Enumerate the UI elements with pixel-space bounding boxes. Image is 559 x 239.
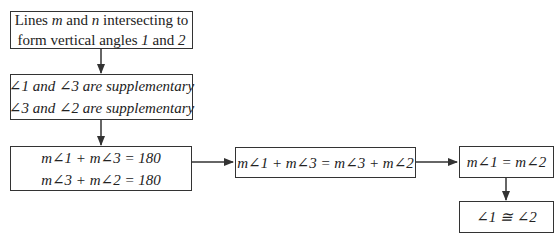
node-substitution: m∠1 + m∠3 = m∠3 + m∠2 <box>235 147 416 178</box>
node-supplementary: ∠1 and ∠3 are supplementary ∠3 and ∠2 ar… <box>10 74 193 120</box>
node-subtract-line-1: m∠1 = m∠2 <box>467 152 546 172</box>
node-supp-line-2: ∠3 and ∠2 are supplementary <box>9 97 194 119</box>
node-sums-line-2: m∠3 + m∠2 = 180 <box>41 169 161 191</box>
node-supp-line-1: ∠1 and ∠3 are supplementary <box>9 75 194 97</box>
node-subst-line-1: m∠1 + m∠3 = m∠3 + m∠2 <box>237 153 413 173</box>
node-congruent-line-1: ∠1 ≅ ∠2 <box>476 207 537 227</box>
node-given: Lines m and n intersecting to form verti… <box>10 11 193 49</box>
node-sums-line-1: m∠1 + m∠3 = 180 <box>41 147 161 169</box>
node-congruent: ∠1 ≅ ∠2 <box>459 201 554 233</box>
node-subtraction: m∠1 = m∠2 <box>459 146 554 178</box>
node-sums: m∠1 + m∠3 = 180 m∠3 + m∠2 = 180 <box>10 146 192 191</box>
